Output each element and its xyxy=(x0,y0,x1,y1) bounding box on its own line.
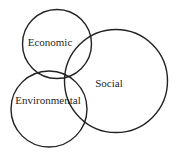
environmental-label: Environmental xyxy=(15,94,80,106)
venn-svg: Economic Environmental Social xyxy=(0,0,176,155)
economic-label: Economic xyxy=(28,36,73,48)
environmental-circle xyxy=(11,71,87,147)
venn-diagram: Economic Environmental Social xyxy=(0,0,176,155)
social-label: Social xyxy=(95,77,123,89)
